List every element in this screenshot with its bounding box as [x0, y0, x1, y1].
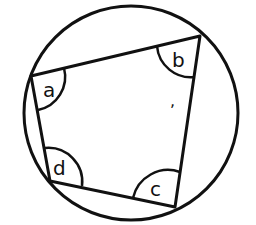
circumscribed-circle: [24, 6, 238, 220]
angle-label-c: c: [150, 177, 161, 201]
center-mark: ,: [170, 91, 175, 110]
angle-label-a: a: [43, 78, 55, 102]
angle-label-b: b: [172, 48, 185, 72]
cyclic-quadrilateral-diagram: a b c d ,: [0, 0, 256, 225]
angle-label-d: d: [53, 156, 66, 180]
